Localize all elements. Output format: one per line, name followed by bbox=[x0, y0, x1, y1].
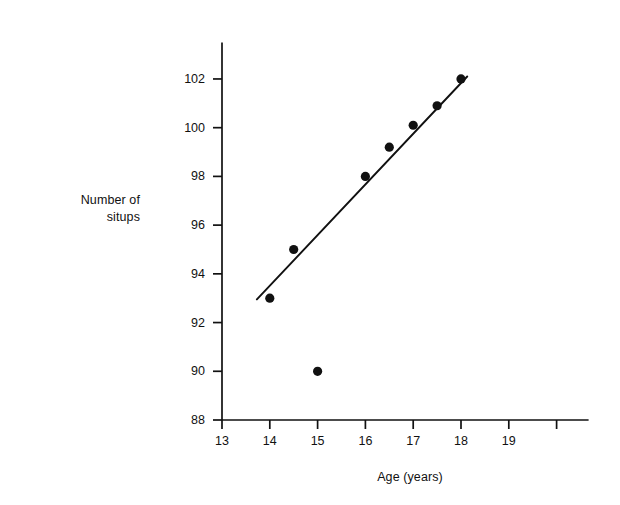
data-points-group bbox=[265, 74, 465, 376]
x-axis-tick-label: 18 bbox=[446, 434, 476, 448]
data-point bbox=[289, 245, 298, 254]
y-axis-tick-label: 92 bbox=[169, 316, 205, 330]
y-axis-tick-label: 100 bbox=[169, 121, 205, 135]
y-axis-title: Number of situps bbox=[10, 192, 140, 226]
plot-canvas bbox=[0, 0, 620, 505]
x-axis-tick-label: 14 bbox=[255, 434, 285, 448]
data-point bbox=[313, 367, 322, 376]
data-point bbox=[409, 121, 418, 130]
y-axis-tick-label: 102 bbox=[169, 72, 205, 86]
data-point bbox=[385, 143, 394, 152]
x-axis-title: Age (years) bbox=[290, 470, 530, 484]
x-axis-tick-label: 13 bbox=[207, 434, 237, 448]
data-point bbox=[265, 294, 274, 303]
y-axis-title-line-1: Number of bbox=[10, 192, 140, 209]
y-axis-tick-label: 98 bbox=[169, 169, 205, 183]
x-axis-tick-label: 16 bbox=[350, 434, 380, 448]
y-axis-tick-label: 90 bbox=[169, 364, 205, 378]
y-axis-tick-label: 88 bbox=[169, 413, 205, 427]
x-axis-tick-label: 17 bbox=[398, 434, 428, 448]
y-axis-tick-label: 94 bbox=[169, 267, 205, 281]
y-axis-tick-label: 96 bbox=[169, 218, 205, 232]
data-point bbox=[361, 172, 370, 181]
axes-group bbox=[222, 42, 589, 420]
ticks-group bbox=[213, 79, 557, 429]
data-point bbox=[433, 101, 442, 110]
y-axis-title-line-2: situps bbox=[10, 209, 140, 226]
x-axis-tick-label: 15 bbox=[303, 434, 333, 448]
x-axis-tick-label: 19 bbox=[494, 434, 524, 448]
scatter-plot-figure: Number of situps Age (years) 88909294969… bbox=[0, 0, 620, 505]
data-point bbox=[456, 74, 465, 83]
